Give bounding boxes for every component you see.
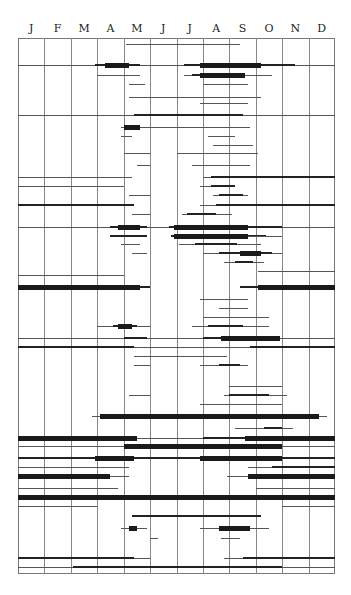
- activity-bar: [18, 467, 129, 468]
- activity-bar: [150, 538, 158, 539]
- activity-bar: [229, 386, 282, 387]
- activity-bar: [18, 457, 335, 459]
- phenology-chart: JFMAMJJASOND: [0, 0, 351, 595]
- activity-bar: [129, 84, 145, 85]
- activity-bar: [256, 488, 335, 489]
- activity-bar: [95, 456, 135, 461]
- month-label: J: [150, 22, 176, 35]
- activity-bar: [18, 275, 124, 276]
- activity-bar: [110, 476, 128, 477]
- activity-bar: [243, 557, 335, 559]
- month-gridline: [309, 38, 310, 574]
- activity-bar: [240, 251, 261, 256]
- activity-bar: [200, 63, 261, 68]
- month-label: D: [309, 22, 335, 35]
- activity-bar: [200, 299, 248, 300]
- month-gridline: [256, 38, 257, 574]
- activity-bar: [118, 324, 131, 329]
- month-label: J: [177, 22, 203, 35]
- activity-bar: [124, 444, 283, 449]
- activity-bar: [174, 234, 248, 239]
- activity-bar: [219, 526, 251, 531]
- activity-bar: [219, 194, 243, 196]
- month-label: M: [124, 22, 150, 35]
- activity-bar: [177, 153, 259, 154]
- month-gridline: [97, 38, 98, 574]
- activity-bar: [18, 488, 118, 489]
- activity-bar: [203, 437, 245, 439]
- activity-bar: [118, 225, 139, 230]
- activity-bar: [134, 356, 226, 357]
- month-gridline: [282, 38, 283, 574]
- activity-bar: [18, 204, 134, 206]
- activity-bar: [105, 63, 129, 68]
- activity-bar: [200, 103, 248, 104]
- activity-bar: [129, 97, 261, 98]
- activity-bar: [134, 558, 150, 559]
- month-gridline: [229, 38, 230, 574]
- activity-bar: [18, 495, 335, 500]
- activity-bar: [192, 165, 250, 166]
- activity-bar: [187, 213, 216, 215]
- activity-bar: [264, 427, 282, 429]
- activity-bar: [195, 243, 237, 245]
- activity-bar: [137, 165, 150, 166]
- activity-bar: [18, 436, 137, 441]
- activity-bar: [272, 466, 335, 468]
- activity-bar: [18, 186, 124, 187]
- activity-bar: [258, 285, 335, 290]
- activity-bar: [134, 347, 250, 348]
- activity-bar: [174, 225, 248, 230]
- activity-bar: [229, 394, 269, 396]
- activity-bar: [121, 244, 139, 245]
- activity-bar: [248, 236, 282, 237]
- month-label: F: [44, 22, 70, 35]
- month-label: M: [71, 22, 97, 35]
- activity-bar: [132, 214, 150, 215]
- activity-bar: [18, 557, 134, 559]
- month-label: A: [97, 22, 123, 35]
- activity-bar: [282, 506, 335, 507]
- month-label: J: [18, 22, 44, 35]
- month-label: S: [229, 22, 255, 35]
- activity-bar: [124, 337, 148, 339]
- activity-bar: [200, 404, 282, 405]
- activity-bar: [227, 476, 248, 477]
- month-gridline: [124, 38, 125, 574]
- activity-bar: [129, 395, 150, 396]
- activity-bar: [126, 44, 240, 45]
- activity-bar: [213, 145, 253, 146]
- activity-bar: [18, 474, 110, 479]
- activity-bar: [18, 506, 97, 507]
- activity-bar: [250, 346, 335, 348]
- activity-bar: [140, 286, 151, 288]
- activity-bar: [258, 271, 335, 272]
- month-gridline: [150, 38, 151, 574]
- activity-bar: [113, 75, 131, 76]
- activity-bar: [211, 185, 235, 187]
- activity-bar: [208, 136, 234, 137]
- activity-bar: [235, 261, 253, 263]
- activity-bar: [203, 84, 248, 85]
- activity-bar: [124, 125, 140, 130]
- month-gridline: [177, 38, 178, 574]
- month-gridline: [203, 38, 204, 574]
- month-label: N: [282, 22, 308, 35]
- activity-bar: [18, 338, 335, 339]
- month-gridline: [71, 38, 72, 574]
- month-gridline: [44, 38, 45, 574]
- activity-bar: [216, 204, 335, 206]
- activity-bar: [142, 114, 234, 116]
- activity-bar: [100, 414, 319, 419]
- activity-bar: [124, 153, 150, 154]
- activity-bar: [73, 566, 282, 568]
- activity-bar: [219, 364, 240, 366]
- month-label: O: [256, 22, 282, 35]
- activity-bar: [132, 515, 261, 517]
- activity-bar: [200, 73, 245, 78]
- activity-bar: [200, 456, 282, 461]
- activity-bar: [219, 308, 248, 309]
- activity-bar: [211, 176, 335, 178]
- activity-bar: [110, 235, 142, 237]
- activity-bar: [203, 317, 269, 318]
